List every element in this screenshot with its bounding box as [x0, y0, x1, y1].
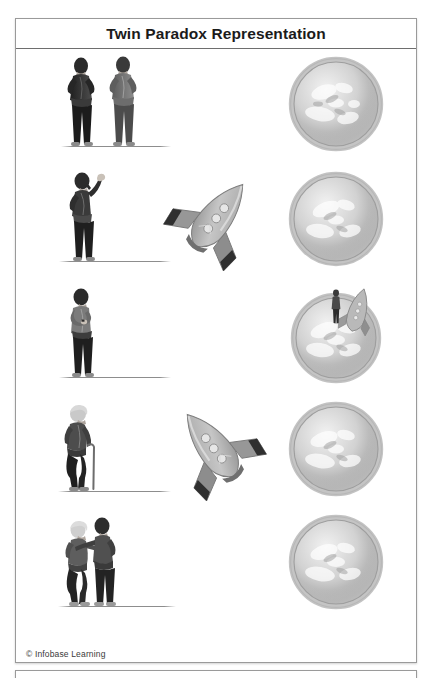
- twin-paradox-figure-panel: Twin Paradox Representation: [15, 18, 417, 663]
- twin-a-figure: [68, 58, 95, 147]
- table-row: [16, 282, 418, 395]
- ground-line: [59, 377, 171, 378]
- row-1-planet: [274, 52, 404, 165]
- waving-twin-figure: [70, 173, 106, 262]
- table-row: [16, 52, 418, 165]
- table-row: [16, 167, 418, 280]
- secondary-panel: [15, 670, 417, 678]
- row-2-planet: [274, 167, 404, 280]
- ground-line: [61, 146, 171, 147]
- row-5-planet: [274, 512, 404, 625]
- ground-line: [58, 491, 171, 492]
- rocket-icon: [161, 160, 274, 273]
- row-4-spacecraft: [156, 397, 281, 510]
- watch-checking-twin-figure: [71, 289, 95, 378]
- copyright-notice: © Infobase Learning: [26, 649, 106, 659]
- table-row: [16, 512, 418, 625]
- table-row: [16, 397, 418, 510]
- row-4-planet: [274, 397, 404, 510]
- figure-body: © Infobase Learning: [16, 50, 416, 664]
- ground-line: [58, 606, 176, 607]
- row-3-people: [36, 282, 196, 395]
- row-3-planet-with-landing: [274, 282, 404, 395]
- rocket-icon: [156, 390, 269, 503]
- page-title: Twin Paradox Representation: [16, 19, 416, 49]
- twin-b-figure: [110, 57, 137, 147]
- row-1-people: [36, 52, 196, 165]
- row-2-spacecraft: [156, 167, 281, 280]
- elderly-twin-with-cane-figure: [65, 405, 95, 491]
- ground-line: [59, 261, 171, 262]
- row-5-people: [36, 512, 196, 625]
- screenshot-root: Twin Paradox Representation: [0, 0, 432, 678]
